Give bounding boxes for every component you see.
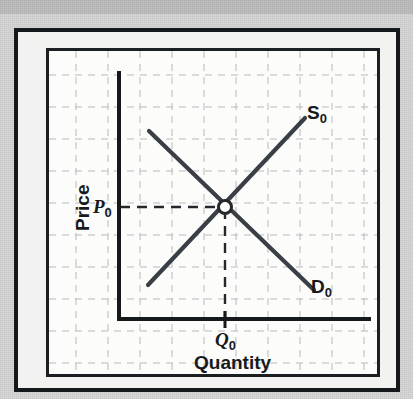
x-axis-label: Quantity	[194, 353, 271, 372]
inner-frame-border: S0 D0 P0 Q0 Price Quantity	[46, 48, 380, 377]
equilibrium-price-label-subscript: 0	[105, 205, 112, 220]
y-axis-label: Price	[73, 185, 92, 231]
supply-curve-label-text: S	[307, 102, 320, 123]
figure-page: S0 D0 P0 Q0 Price Quantity	[0, 0, 413, 399]
demand-curve-label: D0	[311, 277, 332, 296]
supply-curve-label-subscript: 0	[320, 111, 327, 126]
equilibrium-price-label-text: P	[93, 196, 105, 217]
supply-curve-label: S0	[307, 103, 327, 122]
demand-curve-label-text: D	[311, 276, 325, 297]
equilibrium-price-label: P0	[93, 197, 112, 216]
equilibrium-point	[219, 201, 232, 214]
outer-frame-border: S0 D0 P0 Q0 Price Quantity	[14, 28, 400, 392]
equilibrium-quantity-label-subscript: 0	[229, 338, 236, 353]
equilibrium-quantity-label: Q0	[215, 330, 236, 349]
demand-curve-label-subscript: 0	[325, 285, 332, 300]
equilibrium-quantity-label-text: Q	[215, 329, 229, 350]
